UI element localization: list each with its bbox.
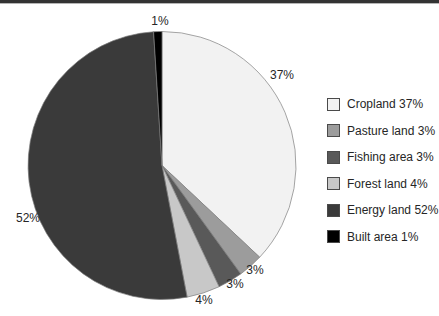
legend-item: Cropland 37% (327, 91, 438, 118)
legend-label: Pasture land 3% (347, 124, 435, 138)
percent-label-fishing-area: 3% (226, 277, 243, 291)
percent-label-built-area: 1% (151, 14, 168, 28)
legend-swatch (327, 124, 340, 137)
legend-swatch (327, 230, 340, 243)
percent-label-energy-land: 52% (16, 211, 40, 225)
legend-label: Cropland 37% (347, 97, 423, 111)
legend-item: Pasture land 3% (327, 118, 438, 145)
legend-swatch (327, 98, 340, 111)
legend-item: Energy land 52% (327, 197, 438, 224)
legend: Cropland 37%Pasture land 3%Fishing area … (327, 91, 438, 250)
legend-item: Built area 1% (327, 224, 438, 251)
legend-swatch (327, 177, 340, 190)
legend-item: Forest land 4% (327, 171, 438, 198)
percent-label-cropland: 37% (270, 68, 294, 82)
percent-label-pasture-land: 3% (246, 263, 263, 277)
legend-item: Fishing area 3% (327, 144, 438, 171)
pie-chart: 37%3%3%4%52%1% Cropland 37%Pasture land … (0, 0, 439, 316)
legend-label: Energy land 52% (347, 203, 438, 217)
legend-swatch (327, 204, 340, 217)
percent-label-forest-land: 4% (195, 293, 212, 307)
legend-label: Fishing area 3% (347, 150, 434, 164)
legend-swatch (327, 151, 340, 164)
legend-label: Forest land 4% (347, 177, 428, 191)
legend-label: Built area 1% (347, 230, 418, 244)
